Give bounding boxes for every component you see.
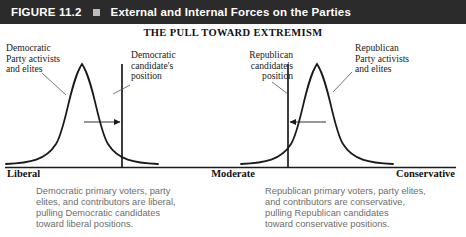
callout-republican-candidate-position: Republican candidate's position xyxy=(229,50,293,82)
axis-label-conservative: Conservative xyxy=(396,168,455,179)
caption-republican: Republican primary voters, party elites,… xyxy=(265,186,465,230)
figure-number: FIGURE 11.2 xyxy=(11,6,82,18)
chart-heading: THE PULL TOWARD EXTREMISM xyxy=(0,27,466,38)
figure-header-bar: FIGURE 11.2 External and Internal Forces… xyxy=(0,0,466,24)
chart-area: THE PULL TOWARD EXTREMISM Democratic Par… xyxy=(0,24,466,176)
leader-line-republican-activists xyxy=(333,72,352,92)
square-bullet-icon xyxy=(93,9,100,16)
callout-democratic-activists: Democratic Party activists and elites xyxy=(6,43,60,75)
axis-label-row: Liberal Moderate Conservative xyxy=(0,168,466,182)
caption-democratic: Democratic primary voters, party elites,… xyxy=(36,186,236,230)
callout-democratic-candidate-position: Democratic candidate's position xyxy=(131,50,176,82)
figure-container: FIGURE 11.2 External and Internal Forces… xyxy=(0,0,466,237)
callout-republican-activists: Republican Party activists and elites xyxy=(355,43,409,75)
leader-line-democratic-activists xyxy=(42,73,66,95)
caption-row: Democratic primary voters, party elites,… xyxy=(0,186,466,237)
leader-line-republican-position xyxy=(272,82,288,94)
figure-title: External and Internal Forces on the Part… xyxy=(111,6,351,18)
